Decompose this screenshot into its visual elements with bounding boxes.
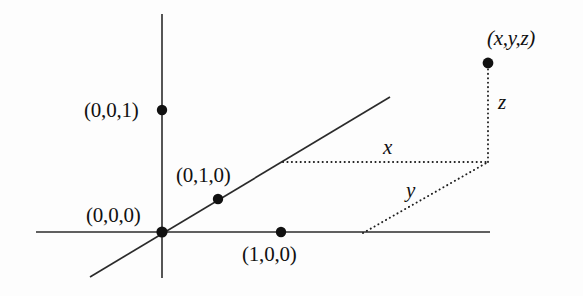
point-label-basis-y: (0,1,0) <box>176 165 231 186</box>
point-label-origin: (0,0,0) <box>86 205 141 226</box>
axis-label-x: x <box>383 137 392 158</box>
point-dot-basis-y <box>213 194 223 204</box>
axis-label-y: y <box>406 180 415 201</box>
point-dot-xyz <box>483 58 494 69</box>
diagonal-subspace-line <box>90 97 390 277</box>
point-dot-origin <box>156 226 167 237</box>
y-projection-dotted-line <box>363 162 488 233</box>
point-label-xyz: (x,y,z) <box>487 28 535 49</box>
point-label-basis-z: (0,0,1) <box>84 100 139 121</box>
point-dot-basis-x <box>276 227 286 237</box>
coordinate-diagram: (0,0,1) (0,1,0) (0,0,0) (1,0,0) (x,y,z) … <box>0 0 583 296</box>
point-label-basis-x: (1,0,0) <box>242 244 297 265</box>
axis-label-z: z <box>498 92 506 113</box>
point-dot-basis-z <box>157 105 167 115</box>
